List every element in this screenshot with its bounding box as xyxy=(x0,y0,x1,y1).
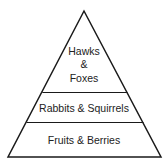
level-bottom-label: Fruits & Berries xyxy=(48,134,120,146)
level-middle-label: Rabbits & Squirrels xyxy=(39,102,129,114)
food-pyramid-diagram: Hawks & Foxes Rabbits & Squirrels Fruits… xyxy=(0,0,166,166)
level-top-line-3: Foxes xyxy=(70,72,99,84)
level-top-line-1: Hawks xyxy=(68,45,100,57)
level-top-line-2: & xyxy=(80,58,87,70)
